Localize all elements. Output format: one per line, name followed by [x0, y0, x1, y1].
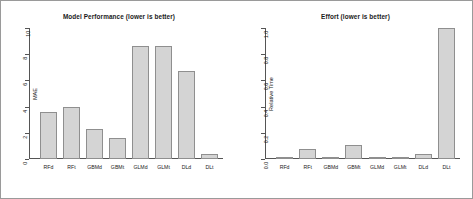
y-tick-left-5 — [25, 28, 29, 29]
x-tick-label-right-5: GLMt — [394, 164, 407, 170]
bar-right-RFt — [299, 149, 316, 159]
y-tick-right-3 — [261, 80, 265, 81]
bar-slot: RFd — [273, 28, 296, 159]
x-tick-label-left-1: RFt — [67, 164, 75, 170]
x-tick-label-left-0: RFd — [44, 164, 54, 170]
bar-left-RFt — [63, 107, 80, 159]
x-tick-label-right-7: DLt — [442, 164, 450, 170]
x-tick-label-left-7: DLt — [205, 164, 213, 170]
plot-area-left: MAE 0246810 RFdRFtGBMdGBMtGLMdGLMtDLdDLt — [35, 28, 223, 159]
bar-left-RFd — [40, 112, 57, 159]
bar-slot: GBMd — [83, 28, 106, 159]
x-tick-label-right-6: DLd — [419, 164, 429, 170]
y-tick-left-3 — [25, 80, 29, 81]
bar-slot: GBMt — [342, 28, 365, 159]
y-tick-left-0 — [25, 159, 29, 160]
y-tick-label-right-2: 0.4 — [264, 109, 269, 117]
bar-right-GBMt — [345, 145, 362, 159]
bar-slot: DLd — [412, 28, 435, 159]
y-tick-left-4 — [25, 54, 29, 55]
bar-left-DLt — [201, 154, 218, 159]
bar-slot: GLMd — [366, 28, 389, 159]
bar-left-GBMt — [109, 138, 126, 159]
bar-slot: GLMt — [389, 28, 412, 159]
y-tick-right-5 — [261, 28, 265, 29]
x-tick-label-right-3: GBMt — [347, 164, 360, 170]
chart-title-left: Model Performance (lower is better) — [1, 13, 237, 20]
y-tick-right-2 — [261, 107, 265, 108]
y-tick-label-right-4: 0.8 — [264, 57, 269, 65]
y-tick-right-4 — [261, 54, 265, 55]
x-tick-label-right-0: RFd — [280, 164, 290, 170]
bar-group-left: RFdRFtGBMdGBMtGLMdGLMtDLdDLt — [35, 28, 223, 159]
x-tick-label-left-6: DLd — [182, 164, 192, 170]
bar-right-DLt — [438, 28, 455, 159]
x-tick-label-left-5: GLMt — [157, 164, 170, 170]
chart-model-performance: Model Performance (lower is better) MAE … — [1, 1, 237, 199]
bar-slot: GBMt — [106, 28, 129, 159]
bar-left-DLd — [178, 71, 195, 159]
y-tick-label-right-3: 0.6 — [264, 83, 269, 91]
y-tick-label-left-2: 4 — [23, 109, 28, 112]
bar-slot: RFt — [60, 28, 83, 159]
y-tick-label-left-1: 2 — [23, 136, 28, 139]
x-tick-label-left-2: GBMd — [87, 164, 102, 170]
x-tick-label-left-4: GLMd — [133, 164, 147, 170]
bar-slot: DLt — [198, 28, 221, 159]
y-tick-label-right-1: 0.2 — [264, 136, 269, 144]
bar-slot: GLMt — [152, 28, 175, 159]
bar-slot: RFd — [37, 28, 60, 159]
y-tick-label-right-0: 0.0 — [264, 162, 269, 170]
bar-slot: RFt — [296, 28, 319, 159]
bar-slot: DLd — [175, 28, 198, 159]
bar-left-GLMd — [132, 46, 149, 159]
chart-title-right: Effort (lower is better) — [237, 13, 473, 20]
y-tick-label-right-5: 1.0 — [264, 31, 269, 39]
bar-slot: DLt — [435, 28, 458, 159]
bar-left-GBMd — [86, 129, 103, 159]
chart-effort: Effort (lower is better) Relative Time 0… — [237, 1, 473, 199]
y-tick-label-left-4: 8 — [23, 57, 28, 60]
y-tick-left-1 — [25, 133, 29, 134]
bar-right-RFd — [276, 157, 293, 159]
y-axis-line-left — [29, 28, 30, 159]
y-tick-right-0 — [261, 159, 265, 160]
bar-slot: GLMd — [129, 28, 152, 159]
x-tick-label-right-2: GBMd — [323, 164, 338, 170]
plot-area-right: Relative Time 0.00.20.40.60.81.0 RFdRFtG… — [271, 28, 460, 159]
y-tick-left-2 — [25, 107, 29, 108]
figure-panel: Model Performance (lower is better) MAE … — [0, 0, 473, 199]
bar-left-GLMt — [155, 46, 172, 159]
x-tick-label-right-1: RFt — [304, 164, 312, 170]
bar-right-GLMt — [392, 157, 409, 159]
x-tick-label-left-3: GBMt — [111, 164, 124, 170]
y-tick-right-1 — [261, 133, 265, 134]
y-tick-label-left-0: 0 — [23, 162, 28, 165]
bar-right-DLd — [415, 154, 432, 159]
y-tick-label-left-5: 10 — [26, 31, 31, 37]
y-tick-label-left-3: 6 — [23, 83, 28, 86]
bar-slot: GBMd — [319, 28, 342, 159]
bar-right-GBMd — [322, 157, 339, 159]
bar-group-right: RFdRFtGBMdGBMtGLMdGLMtDLdDLt — [271, 28, 460, 159]
x-tick-label-right-4: GLMd — [370, 164, 384, 170]
bar-right-GLMd — [369, 157, 386, 159]
